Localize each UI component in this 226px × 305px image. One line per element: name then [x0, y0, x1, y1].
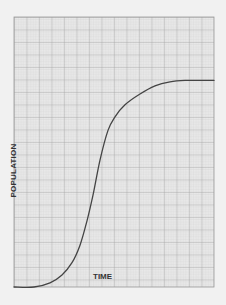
x-axis-label: TIME [93, 272, 112, 281]
y-axis-label: POPULATION [2, 135, 26, 205]
y-axis-label-text: POPULATION [10, 143, 19, 197]
chart-canvas [0, 0, 226, 305]
grid [14, 17, 214, 287]
